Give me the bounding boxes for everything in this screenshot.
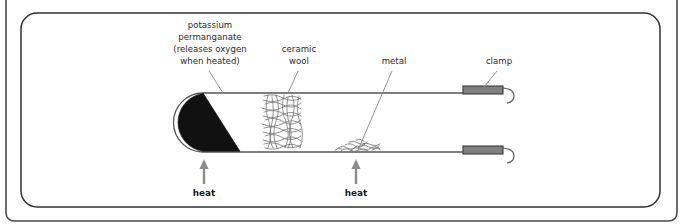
label-heat-right: heat: [345, 188, 367, 198]
label-metal-line1: metal: [382, 56, 407, 66]
label-potassium-line4: when heated): [180, 56, 239, 66]
label-clamp-line1: clamp: [486, 56, 512, 66]
label-heat-left: heat: [193, 188, 215, 198]
label-metal: metal: [382, 56, 407, 66]
label-ceramic-line1: ceramic: [282, 44, 317, 54]
label-clamp: clamp: [486, 56, 512, 66]
figure-canvas: potassium permanganate (releases oxygen …: [0, 0, 684, 224]
label-ceramic-line2: wool: [289, 56, 309, 66]
label-potassium-line2: permanganate: [178, 32, 241, 42]
label-potassium-line1: potassium: [188, 20, 233, 30]
label-potassium-line3: (releases oxygen: [173, 44, 246, 54]
